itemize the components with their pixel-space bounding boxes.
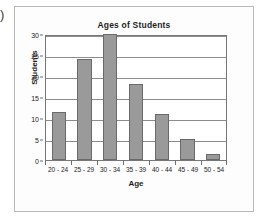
y-tick-label: 0 [35,158,39,165]
x-tick-mark [123,161,124,165]
bar [103,34,117,160]
y-axis-ticks: 051015202530 [15,35,43,161]
bar-slot [123,36,149,160]
y-tick-mark [40,140,43,141]
x-tick-label: 30 - 34 [97,166,123,173]
bar [206,154,220,160]
y-tick-mark [40,77,43,78]
x-tick-mark [97,161,98,165]
x-tick-mark [226,161,227,165]
y-tick-mark [40,35,43,36]
bar-slot [200,36,226,160]
edge-paren-glyph: ) [0,8,14,22]
bar [77,59,91,160]
x-tick-mark [71,161,72,165]
x-tick-label: 50 - 54 [201,166,227,173]
bar-slot [72,36,98,160]
x-tick-label: 35 - 39 [123,166,149,173]
x-tick-mark [45,161,46,165]
x-axis-title: Age [45,179,227,188]
bar [155,114,169,160]
bar-slot [175,36,201,160]
y-tick-label: 20 [31,74,39,81]
x-axis-tickmarks [45,161,227,165]
y-tick-label: 30 [31,32,39,39]
y-tick-mark [40,119,43,120]
y-tick-mark [40,161,43,162]
y-tick-mark [40,56,43,57]
y-tick-mark [40,98,43,99]
bar-slot [149,36,175,160]
bar [129,84,143,160]
bar [180,139,194,160]
y-tick-label: 15 [31,95,39,102]
chart-title: Ages of Students [15,20,253,30]
x-tick-mark [201,161,202,165]
x-tick-label: 25 - 29 [71,166,97,173]
x-tick-label: 20 - 24 [45,166,71,173]
x-tick-label: 40 - 44 [149,166,175,173]
bar-series [46,36,226,160]
bar [52,112,66,160]
bar-slot [46,36,72,160]
y-tick-label: 25 [31,53,39,60]
plot-area [45,35,227,161]
x-tick-mark [175,161,176,165]
bar-slot [97,36,123,160]
x-axis-ticks: 20 - 2425 - 2930 - 3435 - 3940 - 4445 - … [45,166,227,173]
x-tick-label: 45 - 49 [175,166,201,173]
x-tick-mark [149,161,150,165]
y-tick-label: 10 [31,116,39,123]
chart-figure-panel: Ages of Students Students 051015202530 2… [14,6,254,212]
y-tick-label: 5 [35,137,39,144]
